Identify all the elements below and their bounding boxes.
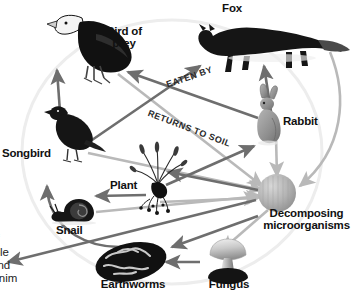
label-earthworms: Earthworms	[83, 279, 183, 291]
label-fungus: Fungus	[198, 279, 260, 291]
arrow-decomposers-to-plant	[168, 172, 258, 190]
label-fox: Fox	[212, 3, 252, 15]
fox-illustration	[198, 24, 350, 72]
food-web-diagram	[0, 0, 351, 298]
label-plant: Plant	[110, 180, 137, 192]
snail-illustration	[50, 199, 96, 225]
label-rabbit: Rabbit	[283, 116, 318, 128]
label-decomposing-microorganisms: Decomposing microorganisms	[262, 208, 351, 231]
label-songbird: Songbird	[2, 148, 51, 160]
arrow-plant-to-snail	[96, 195, 146, 196]
label-bird-of-prey: Bird of prey	[94, 26, 154, 49]
label-snail: Snail	[56, 225, 82, 237]
clipped-body-text: are no nd how umber of ains stable limat…	[0, 206, 46, 285]
